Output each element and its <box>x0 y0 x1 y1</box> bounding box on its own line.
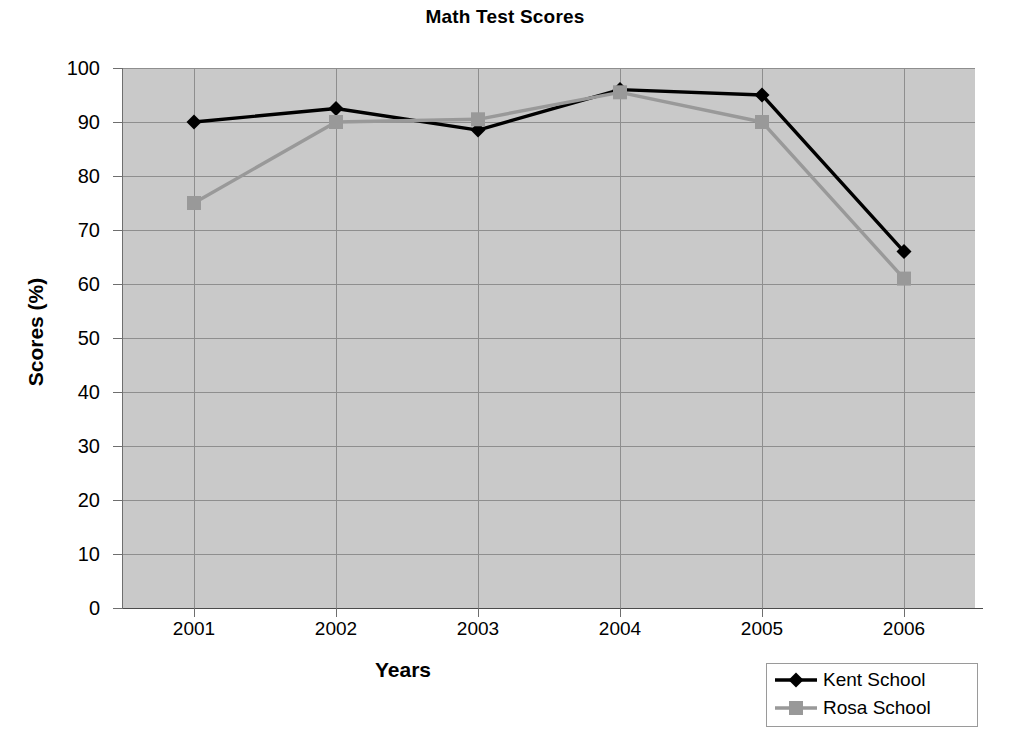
y-axis-tick-mark <box>113 68 123 69</box>
y-axis-tick-mark <box>113 554 123 555</box>
legend-item: Rosa School <box>773 694 971 722</box>
data-point-marker <box>613 85 627 99</box>
chart-title: Math Test Scores <box>0 6 1010 28</box>
data-point-marker <box>187 115 202 130</box>
legend-item-label: Rosa School <box>823 697 931 719</box>
y-axis-tick-label: 80 <box>0 166 100 186</box>
y-axis-tick-mark <box>113 284 123 285</box>
legend-item: Kent School <box>773 666 971 694</box>
chart-figure: Math Test Scores 0102030405060708090100 … <box>0 0 1010 750</box>
legend-item-label: Kent School <box>823 669 925 691</box>
x-axis-tick-mark <box>478 608 479 617</box>
y-axis-tick-label: 50 <box>0 328 100 348</box>
legend-diamond-marker-icon <box>773 669 819 691</box>
x-axis-line <box>113 608 983 609</box>
series-line <box>194 92 904 278</box>
y-axis-tick-mark <box>113 122 123 123</box>
y-axis-tick-mark <box>113 338 123 339</box>
x-axis-tick-label: 2006 <box>834 618 974 640</box>
x-axis-tick-label: 2003 <box>408 618 548 640</box>
data-point-marker <box>329 115 343 129</box>
x-axis-tick-mark <box>620 608 621 617</box>
y-axis-tick-label: 10 <box>0 544 100 564</box>
x-axis-tick-label: 2004 <box>550 618 690 640</box>
x-axis-title: Years <box>123 658 683 682</box>
x-axis-tick-mark <box>336 608 337 617</box>
y-axis-title: Scores (%) <box>24 202 48 462</box>
data-point-marker <box>187 196 201 210</box>
chart-legend: Kent SchoolRosa School <box>766 663 978 727</box>
x-axis-tick-mark <box>194 608 195 617</box>
data-point-marker <box>329 101 344 116</box>
legend-square-marker-icon <box>773 697 819 719</box>
y-axis-tick-mark <box>113 608 123 609</box>
data-series-layer <box>123 68 975 608</box>
y-axis-tick-mark <box>113 230 123 231</box>
y-axis-tick-mark <box>113 446 123 447</box>
x-axis-tick-label: 2005 <box>692 618 832 640</box>
y-axis-tick-label: 0 <box>0 598 100 618</box>
y-axis-tick-label: 40 <box>0 382 100 402</box>
x-axis-tick-mark <box>762 608 763 617</box>
y-axis-tick-label: 20 <box>0 490 100 510</box>
y-axis-tick-mark <box>113 392 123 393</box>
x-axis-tick-label: 2002 <box>266 618 406 640</box>
y-axis-tick-mark <box>113 500 123 501</box>
data-point-marker <box>755 115 769 129</box>
y-axis-tick-label: 100 <box>0 58 100 78</box>
x-axis-tick-label: 2001 <box>124 618 264 640</box>
series-line <box>194 90 904 252</box>
y-axis-tick-label: 60 <box>0 274 100 294</box>
y-axis-tick-label: 70 <box>0 220 100 240</box>
y-axis-tick-label: 30 <box>0 436 100 456</box>
data-point-marker <box>897 272 911 286</box>
y-axis-tick-mark <box>113 176 123 177</box>
x-axis-tick-mark <box>904 608 905 617</box>
y-axis-tick-label: 90 <box>0 112 100 132</box>
data-point-marker <box>471 112 485 126</box>
